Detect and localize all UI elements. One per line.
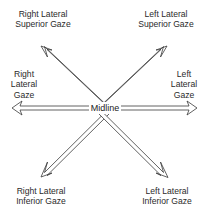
label-line: Right <box>6 69 42 79</box>
label-line: Inferior Gaze <box>138 196 196 206</box>
label-line: Inferior Gaze <box>12 196 70 206</box>
label-left-lateral-superior: Left Lateral Superior Gaze <box>137 9 195 30</box>
label-line: Superior Gaze <box>14 19 72 29</box>
label-line: Gaze <box>6 90 42 100</box>
label-left-lateral-inferior: Left Lateral Inferior Gaze <box>138 186 196 207</box>
label-line: Lateral <box>166 79 202 89</box>
midline-label: Midline <box>89 102 121 114</box>
label-line: Right Lateral <box>14 9 72 19</box>
label-line: Left Lateral <box>138 186 196 196</box>
label-line: Superior Gaze <box>137 19 195 29</box>
arrow-right-lateral-inferior <box>41 111 110 178</box>
label-right-lateral-inferior: Right Lateral Inferior Gaze <box>12 186 70 207</box>
arrow-left-lateral <box>118 101 197 115</box>
gaze-diagram: Midline Right Lateral Superior Gaze Left… <box>0 0 208 215</box>
label-line: Lateral <box>6 79 42 89</box>
label-left-lateral: Left Lateral Gaze <box>166 69 202 100</box>
label-line: Right Lateral <box>12 186 70 196</box>
label-line: Left <box>166 69 202 79</box>
label-right-lateral: Right Lateral Gaze <box>6 69 42 100</box>
arrow-left-lateral-superior <box>99 46 168 109</box>
arrow-right-lateral <box>12 101 92 115</box>
label-line: Left Lateral <box>137 9 195 19</box>
arrow-left-lateral-inferior <box>99 111 169 178</box>
arrow-right-lateral-superior <box>41 46 110 109</box>
label-line: Gaze <box>166 90 202 100</box>
label-right-lateral-superior: Right Lateral Superior Gaze <box>14 9 72 30</box>
